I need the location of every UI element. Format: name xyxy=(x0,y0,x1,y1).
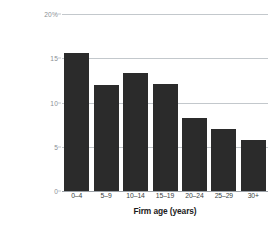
bar xyxy=(241,140,266,191)
y-tick-label-5: 5 xyxy=(54,143,58,150)
x-tick-label: 25–29 xyxy=(209,192,238,199)
bar xyxy=(94,85,119,191)
x-tick-label: 30+ xyxy=(239,192,268,199)
y-tick-mark-0 xyxy=(58,191,61,192)
x-axis-tick-labels: 0–45–910–1415–1920–2425–2930+ xyxy=(62,192,268,204)
bar-chart: % of companies that say they're using cl… xyxy=(0,0,274,229)
y-tick-label-20: 20% xyxy=(44,11,58,18)
y-tick-label-0: 0 xyxy=(54,188,58,195)
y-tick-label-10: 10 xyxy=(50,99,58,106)
y-tick-mark-5 xyxy=(58,146,61,147)
x-tick-label: 20–24 xyxy=(180,192,209,199)
x-tick-label: 15–19 xyxy=(150,192,179,199)
bar xyxy=(153,84,178,191)
bar xyxy=(182,118,207,191)
x-axis-title: Firm age (years) xyxy=(62,206,268,216)
x-tick-label: 10–14 xyxy=(121,192,150,199)
plot-area: 05101520% xyxy=(62,14,268,191)
bar xyxy=(123,73,148,191)
x-tick-label: 0–4 xyxy=(62,192,91,199)
x-tick-label: 5–9 xyxy=(91,192,120,199)
y-tick-mark-10 xyxy=(58,102,61,103)
y-tick-label-15: 15 xyxy=(50,55,58,62)
bar xyxy=(64,53,89,191)
bar xyxy=(211,129,236,191)
y-tick-mark-20 xyxy=(58,14,61,15)
y-tick-mark-15 xyxy=(58,58,61,59)
bars xyxy=(62,14,268,191)
